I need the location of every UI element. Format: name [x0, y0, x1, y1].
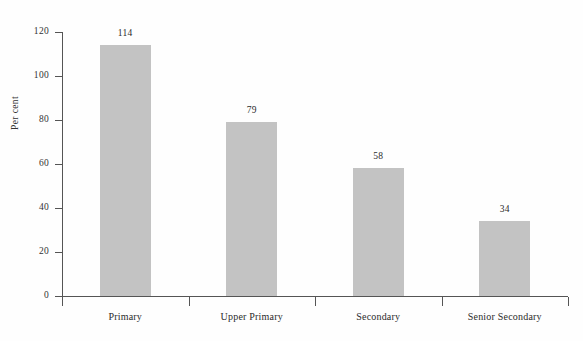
- bar-upper-primary[interactable]: [226, 122, 277, 296]
- x-tick-mark: [568, 297, 569, 306]
- x-tick-mark: [442, 297, 443, 306]
- x-tick-mark: [315, 297, 316, 306]
- y-tick-0: 0: [0, 296, 63, 297]
- x-category-label: Secondary: [315, 312, 442, 322]
- x-tick-mark: [62, 297, 63, 306]
- bar-value-label: 58: [348, 152, 408, 162]
- x-category-label: Primary: [62, 312, 189, 322]
- y-tick-label: 0: [19, 291, 49, 301]
- y-tick-label: 20: [19, 247, 49, 257]
- y-tick-40: 40: [0, 208, 63, 209]
- x-category-label: Senior Secondary: [442, 312, 569, 322]
- y-tick-label: 40: [19, 203, 49, 213]
- y-tick-mark: [55, 164, 63, 165]
- bar-secondary[interactable]: [353, 168, 404, 296]
- bar-value-label: 114: [95, 29, 155, 39]
- y-tick-20: 20: [0, 252, 63, 253]
- bar-primary[interactable]: [100, 45, 151, 296]
- x-tick-mark: [189, 297, 190, 306]
- bar-value-label: 34: [475, 205, 535, 215]
- y-tick-label: 60: [19, 159, 49, 169]
- y-tick-80: 80: [0, 120, 63, 121]
- y-axis-line: [62, 32, 63, 303]
- y-tick-mark: [55, 252, 63, 253]
- y-tick-mark: [55, 32, 63, 33]
- bar-value-label: 79: [222, 106, 282, 116]
- y-tick-60: 60: [0, 164, 63, 165]
- y-tick-mark: [55, 208, 63, 209]
- y-tick-label: 120: [19, 27, 49, 37]
- y-tick-mark: [55, 76, 63, 77]
- bar-senior-secondary[interactable]: [479, 221, 530, 296]
- y-tick-mark: [55, 120, 63, 121]
- x-category-label: Upper Primary: [189, 312, 316, 322]
- y-tick-label: 100: [19, 71, 49, 81]
- y-tick-120: 120: [0, 32, 63, 33]
- bar-chart: Per cent 020406080100120 114Primary79Upp…: [0, 0, 583, 341]
- y-tick-100: 100: [0, 76, 63, 77]
- y-tick-label: 80: [19, 115, 49, 125]
